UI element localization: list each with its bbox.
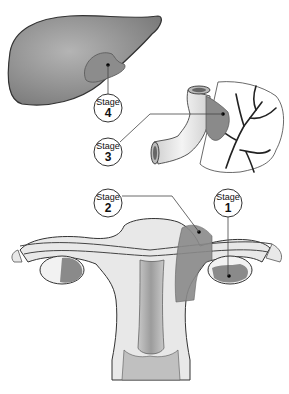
staging-diagram: Stage 4 Stage 3 Stage 2 Stage 1 — [0, 0, 289, 394]
svg-text:3: 3 — [105, 150, 112, 164]
svg-text:1: 1 — [225, 201, 232, 215]
stage-1-callout: Stage 1 — [214, 189, 242, 217]
pelvic-tumor — [175, 225, 212, 302]
ovary-tumor — [212, 264, 248, 283]
stage-3-callout: Stage 3 — [94, 138, 122, 166]
uterine-canal — [138, 260, 164, 354]
colon — [120, 82, 284, 173]
svg-text:2: 2 — [105, 201, 112, 215]
liver — [8, 16, 161, 105]
uterus — [12, 196, 282, 380]
svg-text:4: 4 — [105, 106, 112, 120]
stage-4-callout: Stage 4 — [94, 94, 122, 122]
stage-2-callout: Stage 2 — [94, 189, 122, 217]
